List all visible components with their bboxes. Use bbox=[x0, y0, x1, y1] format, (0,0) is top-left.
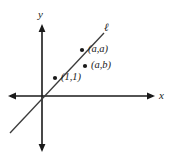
point-a-b-dot bbox=[83, 64, 87, 68]
y-axis-label: y bbox=[38, 9, 43, 20]
point-one-one-label: (1,1) bbox=[61, 72, 81, 83]
figure-graphics bbox=[0, 0, 176, 160]
y-axis bbox=[39, 24, 46, 152]
point-one-one-dot bbox=[53, 76, 57, 80]
point-a-a-label: (a,a) bbox=[88, 44, 108, 55]
y-axis-arrow-up-icon bbox=[39, 24, 46, 32]
y-axis-arrow-down-icon bbox=[39, 144, 46, 152]
coordinate-plane-figure: y x ℓ (a,a) (a,b) (1,1) bbox=[0, 0, 176, 160]
x-axis-arrow-left-icon bbox=[8, 93, 16, 100]
point-a-b-label: (a,b) bbox=[91, 60, 111, 71]
x-axis-label: x bbox=[159, 90, 164, 101]
x-axis-arrow-right-icon bbox=[147, 93, 155, 100]
x-axis bbox=[8, 93, 155, 100]
point-a-a-dot bbox=[80, 48, 84, 52]
line-ell-label: ℓ bbox=[104, 22, 109, 33]
